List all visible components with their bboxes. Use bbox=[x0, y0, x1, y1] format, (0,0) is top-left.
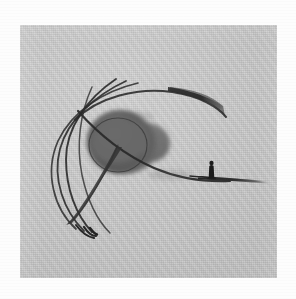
upper-arc-tip bbox=[168, 87, 224, 109]
ink-painting-canvas bbox=[20, 25, 277, 278]
paper-panel bbox=[20, 25, 277, 278]
artwork-frame: Sumi-e ink wash: crescent grasses, moon … bbox=[0, 0, 296, 299]
